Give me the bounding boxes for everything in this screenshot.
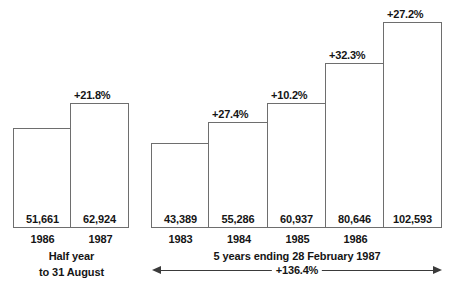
arrow-head-right-icon bbox=[433, 266, 442, 274]
year-label-1986-half: 1986 bbox=[13, 233, 72, 245]
bar-1987-half-year: 62,924 bbox=[70, 103, 129, 228]
left-group-caption-line2: to 31 August bbox=[13, 266, 130, 278]
right-group-caption: 5 years ending 28 February 1987 bbox=[151, 250, 443, 262]
total-growth-arrow: +136.4% bbox=[152, 262, 442, 278]
bar-1985: 60,937 bbox=[267, 103, 326, 228]
bar-value-label: 51,661 bbox=[14, 213, 71, 225]
growth-label-1987: +21.8% bbox=[74, 89, 110, 101]
bar-value-label: 60,937 bbox=[268, 213, 325, 225]
growth-label-1984: +27.4% bbox=[212, 108, 248, 120]
bar-chart: +21.8% 51,661 62,924 1986 1987 Half year… bbox=[0, 0, 450, 290]
left-group-caption-line1: Half year bbox=[13, 250, 130, 262]
bar-1984: 55,286 bbox=[208, 122, 268, 228]
year-label-1986-full: 1986 bbox=[326, 233, 385, 245]
year-label-1987-half: 1987 bbox=[71, 233, 130, 245]
year-label-1984: 1984 bbox=[209, 233, 269, 245]
growth-label-1986: +32.3% bbox=[329, 49, 365, 61]
year-label-1983: 1983 bbox=[151, 233, 210, 245]
bar-1986-half-year: 51,661 bbox=[13, 128, 72, 228]
year-label-1985: 1985 bbox=[268, 233, 327, 245]
growth-label-1987-full: +27.2% bbox=[387, 8, 423, 20]
bar-1986-full: 80,646 bbox=[325, 63, 384, 228]
arrow-head-left-icon bbox=[152, 266, 161, 274]
bar-value-label: 80,646 bbox=[326, 213, 383, 225]
bar-1987-full: 102,593 bbox=[383, 22, 442, 228]
total-growth-label: +136.4% bbox=[272, 264, 322, 276]
bar-value-label: 43,389 bbox=[152, 213, 209, 225]
bar-1983: 43,389 bbox=[151, 143, 210, 228]
growth-label-1985: +10.2% bbox=[271, 89, 307, 101]
bar-value-label: 55,286 bbox=[209, 213, 267, 225]
bar-value-label: 102,593 bbox=[384, 213, 441, 225]
bar-value-label: 62,924 bbox=[71, 213, 128, 225]
